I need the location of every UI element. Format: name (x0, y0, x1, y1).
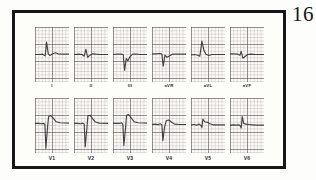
lead-cell-v6: V6 (230, 98, 264, 162)
lead-cell-avf: aVF (230, 27, 264, 90)
ecg-trace-v5 (191, 98, 225, 153)
ecg-trace-avf (230, 27, 264, 82)
ecg-panel-ii (74, 27, 108, 82)
ecg-panel-v4 (152, 98, 186, 153)
lead-cell-ii: II (74, 27, 108, 90)
lead-cell-v5: V5 (191, 98, 225, 162)
lead-label-i: I (51, 84, 52, 90)
ecg-trace-v2 (74, 98, 108, 153)
lead-cell-v3: V3 (113, 98, 147, 162)
ecg-figure: 16 IIIIIIaVRaVLaVF V1V2V3V4V5V6 (0, 0, 316, 180)
lead-label-ii: II (90, 84, 93, 90)
precordial-lead-row: V1V2V3V4V5V6 (35, 98, 273, 162)
lead-label-v4: V4 (166, 156, 173, 162)
ecg-trace-avr (152, 27, 186, 82)
ecg-trace-avl (191, 27, 225, 82)
lead-cell-v1: V1 (35, 98, 69, 162)
lead-label-avl: aVL (204, 84, 213, 90)
lead-cell-i: I (35, 27, 69, 90)
ecg-panel-v1 (35, 98, 69, 153)
figure-number: 16 (292, 4, 314, 25)
lead-cell-avl: aVL (191, 27, 225, 90)
lead-label-v2: V2 (88, 156, 95, 162)
ecg-panel-i (35, 27, 69, 82)
lead-label-iii: III (128, 84, 132, 90)
lead-label-avr: aVR (164, 84, 173, 90)
lead-cell-v2: V2 (74, 98, 108, 162)
ecg-panel-v6 (230, 98, 264, 153)
lead-label-v5: V5 (205, 156, 212, 162)
lead-cell-iii: III (113, 27, 147, 90)
ecg-panel-v5 (191, 98, 225, 153)
ecg-plate-border: IIIIIIaVRaVLaVF V1V2V3V4V5V6 (12, 10, 286, 169)
ecg-panel-avf (230, 27, 264, 82)
lead-label-v6: V6 (244, 156, 251, 162)
twelve-lead-grid: IIIIIIaVRaVLaVF V1V2V3V4V5V6 (35, 27, 273, 162)
ecg-trace-iii (113, 27, 147, 82)
ecg-trace-i (35, 27, 69, 82)
lead-label-v1: V1 (49, 156, 56, 162)
lead-label-avf: aVF (243, 84, 252, 90)
ecg-panel-iii (113, 27, 147, 82)
lead-cell-avr: aVR (152, 27, 186, 90)
ecg-trace-v4 (152, 98, 186, 153)
ecg-trace-v3 (113, 98, 147, 153)
lead-cell-v4: V4 (152, 98, 186, 162)
ecg-panel-avr (152, 27, 186, 82)
lead-label-v3: V3 (127, 156, 134, 162)
ecg-panel-v3 (113, 98, 147, 153)
limb-lead-row: IIIIIIaVRaVLaVF (35, 27, 273, 90)
ecg-trace-v6 (230, 98, 264, 153)
ecg-panel-v2 (74, 98, 108, 153)
ecg-trace-ii (74, 27, 108, 82)
ecg-trace-v1 (35, 98, 69, 153)
ecg-panel-avl (191, 27, 225, 82)
